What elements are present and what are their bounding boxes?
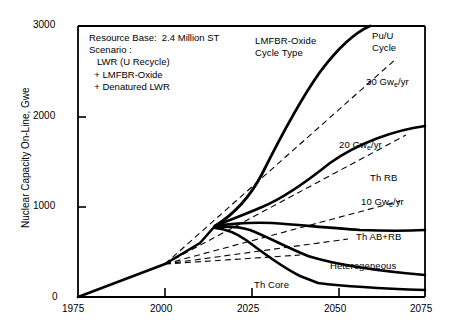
cycle-type-label-line1: LMFBR-Oxide <box>255 35 316 47</box>
y-tick-marks <box>78 26 86 207</box>
x-tick-label-2000: 2000 <box>150 303 172 314</box>
y-axis-title: Nuclear Capacity On-Line, Gwe <box>20 87 31 228</box>
resource-base-text: Resource Base: 2.4 Million ST <box>89 32 219 44</box>
th-ab-rb-label: Th AB+RB <box>356 231 401 243</box>
x-tick-label-2075: 2075 <box>410 303 432 314</box>
y-tick-label-1000: 1000 <box>33 200 55 211</box>
growth-label-30: 30 Gwe/yr <box>366 76 409 91</box>
pu-u-cycle-label-line1: Pu/U <box>372 30 394 42</box>
y-tick-label-3000: 3000 <box>33 19 55 30</box>
growth-label-30-text: 30 Gw <box>366 76 394 87</box>
cycle-type-label-line2: Cycle Type <box>255 47 303 59</box>
pu-u-cycle-label-line2: Cycle <box>372 42 396 54</box>
chart-figure: Nuclear Capacity On-Line, Gwe 0 1000 200… <box>0 0 452 332</box>
x-tick-label-2025: 2025 <box>237 303 259 314</box>
th-rb-label: Th RB <box>370 172 397 184</box>
scenario-annotation-block: Resource Base: 2.4 Million ST Scenario :… <box>89 32 219 93</box>
growth-label-30-tail: /yr <box>398 76 409 87</box>
growth-label-10-tail: /yr <box>393 196 404 207</box>
y-tick-label-0: 0 <box>52 291 58 302</box>
scenario-line-3: + Denatured LWR <box>89 81 219 93</box>
curve-common-base <box>78 226 215 297</box>
x-tick-marks <box>165 288 339 297</box>
growth-label-20: 20 Gwe/yr <box>339 139 382 154</box>
scenario-line-2: + LMFBR-Oxide <box>89 69 219 81</box>
growth-label-10: 10 Gwe/yr <box>361 196 404 211</box>
scenario-line-1: LWR (U Recycle) <box>89 56 219 68</box>
growth-label-20-text: 20 Gw <box>339 139 367 150</box>
scenario-header-text: Scenario : <box>89 44 219 56</box>
th-core-label: Th Core <box>254 279 289 291</box>
x-tick-label-2050: 2050 <box>324 303 346 314</box>
y-tick-label-2000: 2000 <box>33 110 55 121</box>
heterogeneous-label: Heterogeneous <box>330 260 396 272</box>
x-tick-label-1975: 1975 <box>62 303 84 314</box>
growth-label-20-tail: /yr <box>371 139 382 150</box>
growth-label-10-text: 10 Gw <box>361 196 389 207</box>
